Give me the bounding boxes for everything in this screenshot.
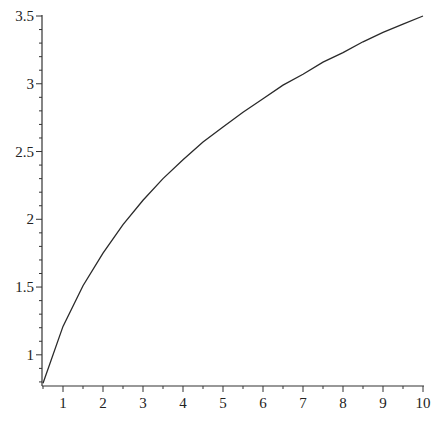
y-tick-label: 1 [27, 347, 35, 363]
x-tick-label: 10 [416, 395, 431, 411]
y-tick-label: 2 [27, 211, 35, 227]
x-tick-label: 6 [259, 395, 267, 411]
y-tick-label: 1.5 [15, 279, 34, 295]
series-line [43, 16, 423, 383]
series-group [43, 16, 423, 383]
y-tick-label: 3.5 [15, 8, 34, 24]
x-tick-label: 8 [339, 395, 347, 411]
y-tick-label: 2.5 [15, 144, 34, 160]
ticks [36, 16, 423, 392]
x-tick-label: 1 [59, 395, 67, 411]
x-tick-label: 2 [99, 395, 107, 411]
x-tick-label: 7 [299, 395, 307, 411]
x-tick-label: 9 [379, 395, 387, 411]
tick-labels: 1234567891011.522.533.5 [15, 8, 430, 411]
x-tick-label: 4 [179, 395, 187, 411]
y-tick-label: 3 [27, 76, 35, 92]
axes [42, 15, 424, 386]
x-tick-label: 3 [139, 395, 147, 411]
chart: 1234567891011.522.533.5 [0, 0, 442, 423]
x-tick-label: 5 [219, 395, 227, 411]
